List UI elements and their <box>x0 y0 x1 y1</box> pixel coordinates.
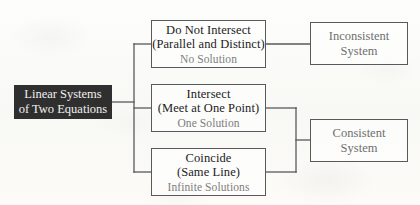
node-coincide[interactable]: Coincide (Same Line) Infinite Solutions <box>151 148 266 196</box>
node-do-not-intersect-title: Do Not Intersect <box>166 23 251 38</box>
node-intersect-subtitle: (Meet at One Point) <box>158 101 260 116</box>
node-coincide-solution: Infinite Solutions <box>168 180 250 194</box>
node-linear-systems[interactable]: Linear Systems of Two Equations <box>14 85 112 119</box>
node-inconsistent-system-line2: System <box>341 44 378 59</box>
node-intersect[interactable]: Intersect (Meet at One Point) One Soluti… <box>151 84 266 132</box>
node-do-not-intersect[interactable]: Do Not Intersect (Parallel and Distinct)… <box>151 20 266 68</box>
node-do-not-intersect-subtitle: (Parallel and Distinct) <box>152 37 265 52</box>
node-inconsistent-system[interactable]: Inconsistent System <box>310 22 408 65</box>
node-inconsistent-system-line1: Inconsistent <box>329 29 389 44</box>
node-consistent-system-line2: System <box>341 141 378 156</box>
node-intersect-title: Intersect <box>187 87 231 102</box>
node-linear-systems-line2: of Two Equations <box>19 102 107 117</box>
diagram-canvas: Linear Systems of Two Equations Do Not I… <box>0 0 420 205</box>
node-coincide-subtitle: (Same Line) <box>177 165 240 180</box>
node-intersect-solution: One Solution <box>177 116 239 130</box>
node-coincide-title: Coincide <box>186 151 232 166</box>
node-consistent-system-line1: Consistent <box>333 126 386 141</box>
node-do-not-intersect-solution: No Solution <box>180 52 237 66</box>
node-linear-systems-line1: Linear Systems <box>24 87 101 102</box>
node-consistent-system[interactable]: Consistent System <box>310 119 408 162</box>
